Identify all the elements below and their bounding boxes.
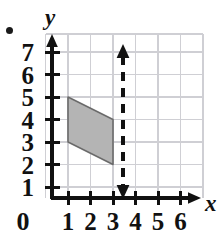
line-of-reflection-arrow [117,44,130,199]
x-tick-label-6: 6 [170,209,192,234]
x-tick-label-4: 4 [125,209,147,234]
x-tick-label-5: 5 [147,209,169,234]
origin-label: 0 [12,209,34,235]
coordinate-plane-figure: y x 0 7 6 5 4 3 2 1 1 2 3 4 5 6 [0,0,224,251]
x-tick-label-1: 1 [57,209,79,234]
x-axis-label: x [205,192,216,215]
line-of-reflection-arrowhead-top [117,44,130,58]
y-tick-label-1: 1 [14,175,34,200]
x-tick-label-2: 2 [80,209,102,234]
y-axis-arrowhead [46,34,58,47]
y-axis-label: y [45,6,55,29]
x-tick-label-3: 3 [102,209,124,234]
x-axis-arrowhead [188,192,201,204]
